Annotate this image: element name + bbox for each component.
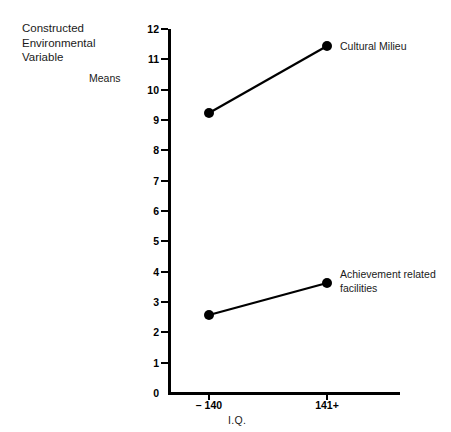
series-achievement-related-facilities — [204, 278, 332, 320]
data-point-cultural-milieu-low — [204, 108, 214, 118]
series-cultural-milieu — [204, 41, 332, 118]
chart-figure: Constructed Environmental Variable Means… — [0, 0, 451, 432]
data-point-achievement-high — [322, 278, 332, 288]
data-point-cultural-milieu-high — [322, 41, 332, 51]
data-point-achievement-low — [204, 310, 214, 320]
y-axis-ticks — [161, 29, 168, 363]
chart-plot-area — [0, 0, 451, 432]
